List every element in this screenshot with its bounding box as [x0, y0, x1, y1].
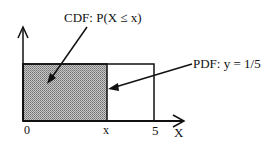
- cdf-label: CDF: P(X ≤ x): [64, 10, 142, 25]
- x-axis-label: X: [174, 125, 184, 140]
- pdf-label: PDF: y = 1/5: [193, 56, 261, 71]
- upper-bound-tick-label: 5: [152, 123, 159, 138]
- pdf-pointer-arrowhead-icon: [108, 83, 119, 91]
- origin-tick-label: 0: [24, 123, 30, 137]
- x-tick-label: x: [103, 123, 109, 137]
- cdf-shaded-area: [23, 64, 107, 121]
- uniform-distribution-diagram: CDF: P(X ≤ x) PDF: y = 1/5 0 x 5 X: [0, 0, 272, 150]
- diagram-svg: CDF: P(X ≤ x) PDF: y = 1/5 0 x 5 X: [0, 0, 272, 150]
- pdf-pointer-line: [112, 64, 192, 88]
